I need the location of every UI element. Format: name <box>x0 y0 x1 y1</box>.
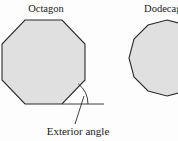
geometry-figure: Octagon Dodecagon Exterior angle <box>0 0 178 141</box>
exterior-angle-leader-line <box>75 96 84 124</box>
dodecagon-shape <box>129 20 178 96</box>
figure-canvas: Octagon Dodecagon Exterior angle <box>0 0 178 141</box>
exterior-angle-arc <box>78 84 88 104</box>
exterior-angle-label: Exterior angle <box>47 125 110 137</box>
octagon-label: Octagon <box>28 3 64 14</box>
octagon-shape <box>2 20 85 104</box>
dodecagon-label: Dodecagon <box>144 3 178 14</box>
